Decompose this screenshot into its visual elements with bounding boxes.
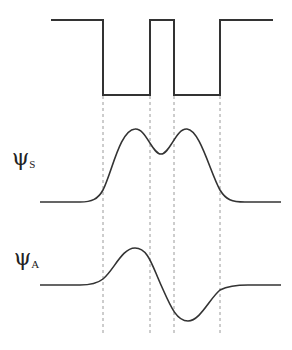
psi-symbol: ψ [14, 245, 31, 270]
psi-s-label: ψS [12, 145, 35, 170]
psi-antisymmetric-curve [40, 248, 281, 321]
subscript-a: A [31, 258, 39, 270]
psi-symmetric-curve [40, 129, 281, 202]
psi-a-label: ψA [14, 245, 39, 270]
diagram-canvas [0, 0, 292, 350]
subscript-s: S [29, 158, 35, 170]
well-boundaries [103, 96, 220, 336]
potential-curve [51, 20, 273, 95]
psi-symbol: ψ [12, 145, 29, 170]
